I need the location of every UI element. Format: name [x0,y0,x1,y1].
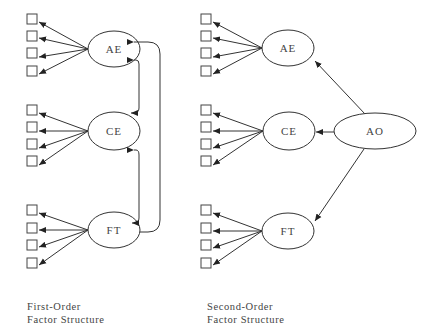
first-order-factor-ae: AE [27,14,140,76]
first-order-factor-ft: FT [27,205,140,268]
second-order-factor-ae: AE [201,14,314,76]
second-order-factor-ft: FT [201,205,314,268]
factor-label-ce: CE [281,125,297,137]
indicator-box [201,31,211,41]
loading-arrow [39,213,88,230]
indicator-box [201,122,211,132]
indicator-group-ce [27,105,37,166]
loading-arrow [39,230,88,265]
loading-arrow [213,38,262,48]
loading-arrow [213,213,262,231]
caption-first-order-line1: First-Order [27,300,105,313]
loading-arrows-ft [213,213,262,265]
indicator-box [201,156,211,166]
loading-arrows-ce [39,113,88,165]
path-ao-to-ft [315,149,364,221]
caption-second-order: Second-Order Factor Structure [207,300,285,326]
indicator-box [27,139,37,149]
loading-arrow [213,131,263,148]
factor-label-ao: AO [366,125,384,137]
loading-arrow [39,131,88,148]
caption-second-order-line2: Factor Structure [207,313,285,326]
indicator-group-ae [27,14,37,76]
loading-arrow [39,113,88,131]
indicator-box [27,48,37,58]
indicator-box [27,66,37,76]
first-order-factor-ce: CE [27,105,140,166]
indicator-group-ce [201,105,211,166]
loading-arrow [39,38,88,49]
indicator-box [27,105,37,115]
correlation-ae-ce [131,60,139,113]
indicator-box [27,223,37,233]
caption-first-order: First-Order Factor Structure [27,300,105,326]
second-order-model: AE CE [201,14,416,268]
indicator-box [27,205,37,215]
indicator-box [27,122,37,132]
indicator-box [201,105,211,115]
factor-structure-diagram: AE CE [0,0,433,332]
indicator-box [27,31,37,41]
loading-arrow [39,131,88,165]
loading-arrows-ae [39,22,88,74]
loading-arrow [39,22,88,49]
factor-label-ft: FT [281,225,296,237]
second-order-factor-ce: CE [201,105,315,166]
correlation-ce-ft [132,150,139,223]
first-order-model: AE CE [27,14,160,268]
indicator-box [27,156,37,166]
factor-label-ft: FT [107,224,122,236]
indicator-box [201,223,211,233]
factor-label-ce: CE [106,125,122,137]
path-ao-to-ae [315,61,365,114]
caption-first-order-line2: Factor Structure [27,313,105,326]
indicator-box [27,240,37,250]
loading-arrow [213,231,262,265]
loading-arrows-ce [213,113,263,165]
loading-arrows-ft [39,213,88,265]
higher-order-factor-ao: AO [315,61,416,221]
indicator-group-ft [201,205,211,268]
indicator-group-ae [201,14,211,76]
loading-arrows-ae [213,22,262,74]
indicator-box [201,139,211,149]
factor-label-ae: AE [280,42,297,54]
indicator-box [201,48,211,58]
indicator-box [201,240,211,250]
indicator-box [27,14,37,24]
indicator-box [201,258,211,268]
loading-arrow [213,22,262,48]
loading-arrow [213,231,262,248]
indicator-box [201,14,211,24]
indicator-box [27,258,37,268]
caption-second-order-line1: Second-Order [207,300,285,313]
loading-arrow [39,230,88,247]
loading-arrow [213,131,263,165]
loading-arrow [213,48,262,57]
indicator-box [201,66,211,76]
factor-label-ae: AE [106,43,123,55]
loading-arrow [213,48,262,74]
loading-arrow [213,113,263,131]
indicator-group-ft [27,205,37,268]
indicator-box [201,205,211,215]
